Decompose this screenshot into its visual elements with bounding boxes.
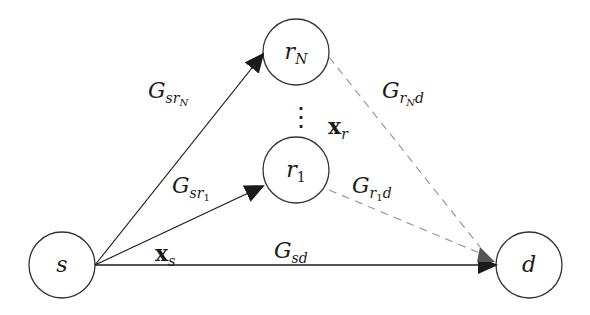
node-rN-label: rN <box>263 41 329 66</box>
node-d-label: d <box>496 254 562 276</box>
label-G-srN: GsrN <box>148 80 188 108</box>
node-s-label: s <box>29 254 95 276</box>
label-G-sr1: Gsr1 <box>172 175 210 203</box>
label-G-rNd: GrNd <box>382 80 424 108</box>
label-G-sd: Gsd <box>274 240 308 265</box>
label-G-r1d: Gr1d <box>352 175 392 203</box>
label-xs: xs <box>155 242 175 268</box>
label-xr: xr <box>328 115 348 141</box>
node-r1-label: r1 <box>263 159 329 184</box>
vertical-ellipsis: ⋮ <box>288 104 314 130</box>
arrowhead-d-dashed <box>477 247 495 262</box>
